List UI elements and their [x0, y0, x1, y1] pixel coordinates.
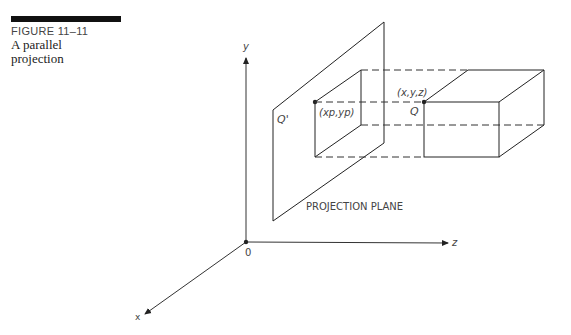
object-box: [424, 70, 544, 157]
projected-coords-label: (xp,yp): [319, 107, 355, 118]
z-axis-label: z: [451, 237, 458, 248]
z-axis: [246, 242, 448, 243]
projected-point-label: Q': [277, 113, 289, 126]
point-q-dot: [422, 100, 426, 104]
x-axis-label: x: [135, 312, 141, 322]
x-axis: [145, 242, 246, 314]
origin-label: 0: [245, 247, 251, 258]
projection-plane: [273, 22, 384, 221]
parallel-projection-diagram: y z x 0 Q' (xp,yp) (x,y,z) Q PROJECTION …: [0, 0, 571, 335]
point-label: Q: [410, 105, 419, 118]
projection-plane-label: PROJECTION PLANE: [306, 201, 403, 212]
point-coords-label: (x,y,z): [397, 87, 427, 98]
y-axis-label: y: [242, 41, 250, 52]
origin-dot: [244, 240, 248, 244]
